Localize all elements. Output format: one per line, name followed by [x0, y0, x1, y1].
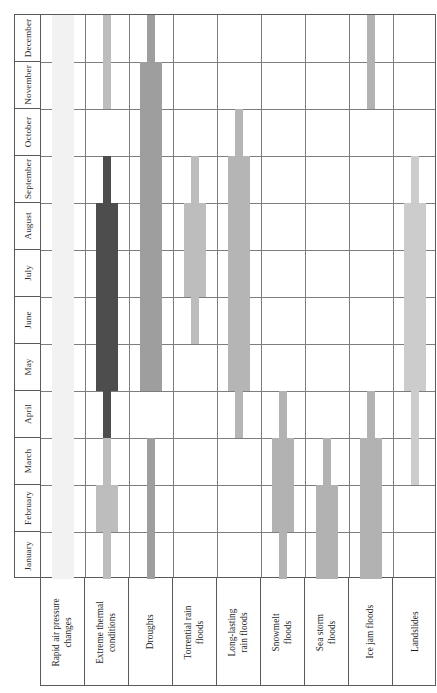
month-label-text: February	[23, 491, 33, 525]
bar-extreme-thermal-conditions-wide	[96, 203, 119, 391]
hazard-axis: Rapid air pressurechangesExtreme thermal…	[40, 578, 436, 686]
month-label-january: January	[15, 532, 41, 579]
hazard-label-text: Torrential rainfloods	[183, 605, 206, 659]
hazard-label-snowmelt-floods: Snowmeltfloods	[261, 578, 305, 686]
month-label-march: March	[15, 438, 41, 485]
grid-line-vertical	[85, 15, 86, 577]
grid-line-vertical	[305, 15, 306, 577]
hazard-label-torrential-rain-floods: Torrential rainfloods	[173, 578, 217, 686]
month-label-text: June	[23, 311, 33, 328]
bar-snowmelt-floods-wide	[272, 438, 295, 532]
grid-line-vertical	[129, 15, 130, 577]
month-label-text: July	[23, 265, 33, 281]
month-label-august: August	[15, 203, 41, 250]
month-label-july: July	[15, 250, 41, 297]
month-label-september: September	[15, 156, 41, 203]
hazard-label-text: Snowmeltfloods	[271, 613, 294, 651]
hazard-label-text: Extreme thermalconditions	[95, 601, 118, 664]
month-axis: DecemberNovemberOctoberSeptemberAugustJu…	[14, 14, 40, 578]
grid-line-vertical	[217, 15, 218, 577]
bar-droughts-thin	[147, 438, 154, 579]
hazard-label-text: Sea stormfloods	[315, 613, 338, 650]
hazard-label-droughts: Droughts	[129, 578, 173, 686]
month-label-text: May	[23, 358, 33, 375]
hazard-label-rapid-air-pressure-changes: Rapid air pressurechanges	[41, 578, 85, 686]
grid-line-vertical	[393, 15, 394, 577]
month-label-april: April	[15, 391, 41, 438]
hazard-label-text: Long-lastingrain floods	[227, 608, 250, 656]
bar-rapid-air-pressure-changes-wide	[52, 15, 75, 579]
bar-droughts-wide	[140, 62, 163, 391]
grid-line-vertical	[349, 15, 350, 577]
plot-area	[40, 14, 436, 578]
hazard-label-long-lasting-rain-floods: Long-lastingrain floods	[217, 578, 261, 686]
month-label-text: December	[23, 19, 33, 58]
hazard-label-extreme-thermal-conditions: Extreme thermalconditions	[85, 578, 129, 686]
hazard-label-text: Ice jam floods	[365, 605, 377, 659]
month-label-text: September	[23, 159, 33, 199]
month-label-december: December	[15, 15, 41, 62]
bar-extreme-thermal-conditions-thin	[103, 15, 110, 109]
grid-line-vertical	[173, 15, 174, 577]
month-label-text: October	[23, 117, 33, 147]
hazard-seasonality-chart: DecemberNovemberOctoberSeptemberAugustJu…	[0, 0, 437, 693]
month-label-february: February	[15, 485, 41, 532]
bar-long-lasting-rain-floods-wide	[228, 156, 251, 391]
month-label-text: August	[23, 212, 33, 239]
hazard-label-text: Landslides	[409, 612, 421, 653]
month-label-text: November	[23, 65, 33, 105]
grid-line-vertical	[261, 15, 262, 577]
hazard-label-ice-jam-floods: Ice jam floods	[349, 578, 393, 686]
month-label-text: March	[23, 449, 33, 473]
month-label-october: October	[15, 109, 41, 156]
bar-ice-jam-floods-thin	[367, 15, 374, 109]
month-label-june: June	[15, 297, 41, 344]
bar-ice-jam-floods-wide	[360, 438, 383, 579]
hazard-label-text: Rapid air pressurechanges	[51, 598, 74, 666]
month-label-text: April	[23, 404, 33, 424]
hazard-label-text: Droughts	[145, 615, 157, 650]
month-label-text: January	[23, 541, 33, 570]
bar-sea-storm-floods-wide	[316, 485, 339, 579]
hazard-label-landslides: Landslides	[393, 578, 437, 686]
month-label-november: November	[15, 62, 41, 109]
month-label-may: May	[15, 344, 41, 391]
grid-line-horizontal	[41, 62, 435, 63]
bar-extreme-thermal-conditions-wide	[96, 485, 119, 532]
bar-landslides-wide	[404, 203, 427, 391]
hazard-label-sea-storm-floods: Sea stormfloods	[305, 578, 349, 686]
bar-torrential-rain-floods-wide	[184, 203, 207, 297]
